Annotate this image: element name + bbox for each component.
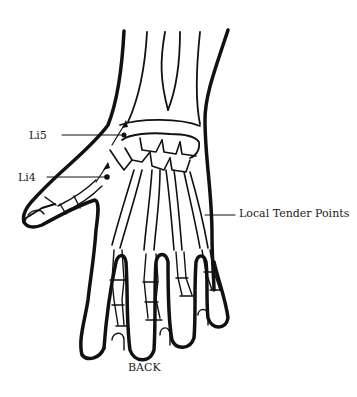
hand-diagram: Li5 Li4 Local Tender Points BACK xyxy=(0,0,357,397)
local-tender-points-label: Local Tender Points xyxy=(239,208,349,219)
hand-skeleton-illustration xyxy=(0,0,357,397)
li4-point-marker xyxy=(104,174,110,180)
li5-label: Li5 xyxy=(29,130,47,141)
li4-label: Li4 xyxy=(18,172,36,183)
view-label: BACK xyxy=(128,362,161,373)
li5-point-marker xyxy=(122,133,127,138)
